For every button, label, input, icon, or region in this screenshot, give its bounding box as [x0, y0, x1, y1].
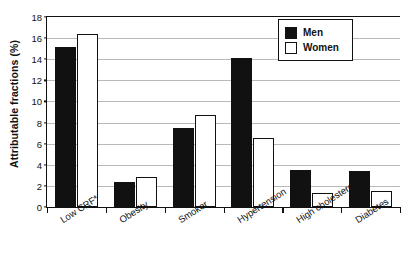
y-tick-label: 18 [31, 12, 42, 23]
y-tick-label: 8 [37, 117, 42, 128]
y-tick-mark [44, 59, 48, 60]
legend-swatch-men-icon [285, 27, 297, 39]
bar-men-4 [290, 170, 311, 207]
bar-men-0 [55, 47, 76, 207]
x-tick-mark [341, 207, 342, 213]
y-axis-title: Attributable fractions (%) [8, 14, 24, 194]
y-tick-mark [44, 122, 48, 123]
bar-men-3 [231, 58, 252, 207]
legend-item-women[interactable]: Women [285, 40, 345, 55]
chart-legend: Men Women [278, 19, 353, 61]
y-tick-label: 0 [37, 202, 42, 213]
y-tick-mark [44, 143, 48, 144]
legend-label-women: Women [303, 42, 339, 53]
chart-figure: Attributable fractions (%) 0246810121416… [0, 0, 415, 265]
y-tick-label: 12 [31, 75, 42, 86]
y-tick-mark [44, 16, 48, 17]
x-tick-mark [165, 207, 166, 213]
gridline [47, 144, 400, 145]
bar-men-5 [349, 171, 370, 207]
gridline [47, 123, 400, 124]
bar-men-1 [114, 182, 135, 207]
x-tick-mark [400, 207, 401, 213]
y-tick-mark [44, 101, 48, 102]
y-tick-label: 14 [31, 54, 42, 65]
legend-swatch-women-icon [285, 42, 297, 54]
x-tick-mark [106, 207, 107, 213]
x-tick-mark [224, 207, 225, 213]
y-tick-label: 4 [37, 159, 42, 170]
x-tick-mark [282, 207, 283, 213]
gridline [47, 101, 400, 102]
x-tick-mark [47, 207, 48, 213]
y-tick-label: 6 [37, 138, 42, 149]
y-tick-label: 2 [37, 180, 42, 191]
y-tick-mark [44, 164, 48, 165]
legend-item-men[interactable]: Men [285, 25, 345, 40]
y-tick-label: 16 [31, 33, 42, 44]
gridline [47, 165, 400, 166]
bar-men-2 [173, 128, 194, 207]
y-tick-label: 10 [31, 96, 42, 107]
gridline [47, 80, 400, 81]
y-tick-mark [44, 185, 48, 186]
y-tick-mark [44, 80, 48, 81]
y-tick-mark [44, 38, 48, 39]
legend-label-men: Men [303, 27, 323, 38]
bar-women-2 [195, 115, 216, 207]
bar-women-0 [77, 34, 98, 207]
